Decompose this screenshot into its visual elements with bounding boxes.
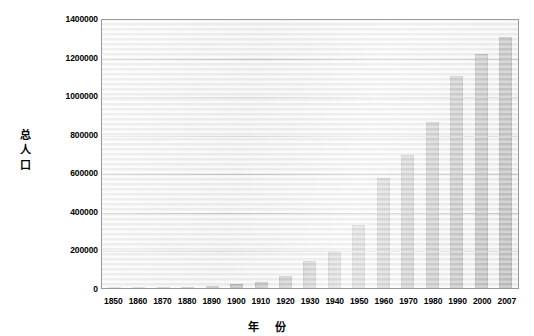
x-axis-tick-label: 1970 <box>396 296 421 309</box>
x-axis-tick-label: 1990 <box>445 296 470 309</box>
x-axis-tick-label: 1880 <box>175 296 200 309</box>
bar-slot <box>224 20 248 288</box>
bar[interactable] <box>450 76 463 288</box>
x-axis-tick-label: 1920 <box>273 296 298 309</box>
x-axis-tick-label: 2000 <box>470 296 495 309</box>
bar-slot <box>445 20 469 288</box>
bar-slot <box>298 20 322 288</box>
bar-chart: 总 人 口 1400000 1200000 1000000 800000 600… <box>0 0 534 336</box>
y-axis-title-char-1: 总 <box>14 128 36 143</box>
bar[interactable] <box>475 54 488 288</box>
x-axis-tick-label: 2007 <box>495 296 520 309</box>
y-axis-title-char-2: 人 <box>14 143 36 158</box>
bar[interactable] <box>255 282 268 288</box>
y-axis-tick-label: 800000 <box>36 130 98 139</box>
x-axis-tick-label: 1930 <box>298 296 323 309</box>
y-axis-tick-label: 1000000 <box>36 92 98 101</box>
bar-slot <box>371 20 395 288</box>
bar-series <box>102 20 518 288</box>
y-axis-tick-label: 1200000 <box>36 53 98 62</box>
y-axis-tick-label: 200000 <box>36 246 98 255</box>
bar[interactable] <box>303 261 316 288</box>
bar[interactable] <box>108 287 121 288</box>
bar[interactable] <box>279 276 292 288</box>
bar[interactable] <box>401 155 414 288</box>
y-axis-tick-label: 400000 <box>36 207 98 216</box>
y-axis-title-char-3: 口 <box>14 158 36 173</box>
x-axis-tick-label: 1890 <box>199 296 224 309</box>
x-axis-tick-label: 1980 <box>421 296 446 309</box>
bar-slot <box>126 20 150 288</box>
bar-slot <box>175 20 199 288</box>
plot-area <box>101 19 519 289</box>
bar-slot <box>102 20 126 288</box>
bar[interactable] <box>377 178 390 288</box>
bar-slot <box>273 20 297 288</box>
bar-slot <box>200 20 224 288</box>
bar[interactable] <box>181 287 194 288</box>
y-axis-tick-label: 600000 <box>36 169 98 178</box>
bar-slot <box>151 20 175 288</box>
bar[interactable] <box>426 122 439 288</box>
bar[interactable] <box>230 284 243 288</box>
x-axis-tick-label: 1940 <box>322 296 347 309</box>
y-axis-tick-label: 1400000 <box>36 15 98 24</box>
bar-slot <box>469 20 493 288</box>
x-axis-tick-labels: 1850186018701880189019001910192019301940… <box>101 296 519 309</box>
y-axis-tick-label: 0 <box>36 285 98 294</box>
bar-slot <box>347 20 371 288</box>
bar-slot <box>396 20 420 288</box>
bar[interactable] <box>206 286 219 288</box>
x-axis-tick-label: 1960 <box>372 296 397 309</box>
x-axis-tick-label: 1900 <box>224 296 249 309</box>
x-axis-tick-label: 1850 <box>101 296 126 309</box>
bar-slot <box>420 20 444 288</box>
bar-slot <box>249 20 273 288</box>
y-axis-title: 总 人 口 <box>14 128 36 173</box>
bar[interactable] <box>132 287 145 288</box>
x-axis-tick-label: 1910 <box>249 296 274 309</box>
x-axis-title: 年 份 <box>0 318 534 334</box>
x-axis-tick-label: 1870 <box>150 296 175 309</box>
x-axis-tick-label: 1860 <box>126 296 151 309</box>
bar-slot <box>494 20 518 288</box>
bar[interactable] <box>157 287 170 288</box>
bar[interactable] <box>352 225 365 288</box>
bar[interactable] <box>328 251 341 288</box>
bar[interactable] <box>499 37 512 288</box>
y-axis-tick-labels: 1400000 1200000 1000000 800000 600000 40… <box>36 0 98 336</box>
bar-slot <box>322 20 346 288</box>
x-axis-tick-label: 1950 <box>347 296 372 309</box>
